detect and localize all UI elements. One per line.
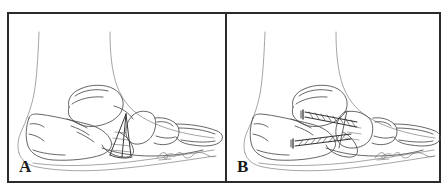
- artist-signature-b: [373, 147, 435, 163]
- fixation-screw-upper: [301, 110, 357, 127]
- osteotomy-wedge-hatching: [111, 132, 131, 152]
- panel-a: A: [9, 14, 225, 181]
- artist-signature-a: [155, 147, 217, 163]
- figure-root: A: [0, 0, 448, 193]
- figure-frame: A: [7, 12, 441, 183]
- panel-b: B: [227, 14, 443, 181]
- panel-b-label: B: [237, 158, 249, 175]
- panel-a-label: A: [19, 158, 32, 175]
